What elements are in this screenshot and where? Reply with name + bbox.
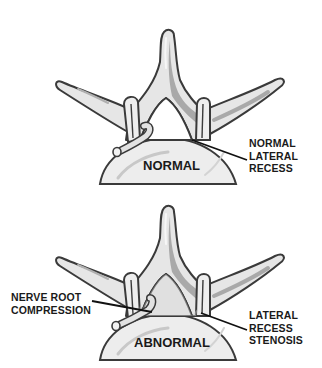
callout-line: COMPRESSION	[11, 304, 91, 317]
callout-line: LATERAL	[249, 309, 303, 322]
diagram-canvas: NORMAL ABNORMAL NORMAL LATERAL RECESS NE…	[0, 0, 322, 368]
callout-line: RECESS	[249, 322, 303, 335]
callout-line: LATERAL	[249, 150, 298, 163]
callout-nerve-root-compression: NERVE ROOT COMPRESSION	[11, 291, 91, 316]
callout-line: NORMAL	[249, 137, 298, 150]
panel-title-normal: NORMAL	[143, 158, 200, 173]
callout-normal-lateral-recess: NORMAL LATERAL RECESS	[249, 137, 298, 175]
callout-lateral-recess-stenosis: LATERAL RECESS STENOSIS	[249, 309, 303, 347]
callout-line: RECESS	[249, 162, 298, 175]
callout-line: NERVE ROOT	[11, 291, 91, 304]
callout-line: STENOSIS	[249, 334, 303, 347]
panel-title-abnormal: ABNORMAL	[134, 335, 210, 350]
